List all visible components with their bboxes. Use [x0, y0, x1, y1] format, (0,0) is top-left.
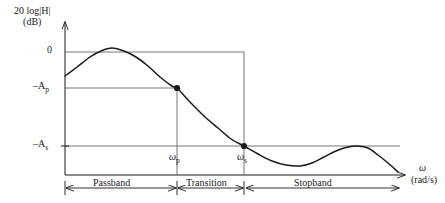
band-label-transition: Transition	[186, 178, 227, 189]
x-tick-omega-p-text: ω	[169, 151, 176, 162]
x-tick-omega-p-sub: p	[176, 156, 180, 165]
band-label-stopband: Stopband	[294, 178, 332, 189]
y-axis-title: 20 log|H| (dB)	[14, 6, 51, 27]
magnitude-response-curve	[65, 48, 398, 172]
y-axis-title-unit: (dB)	[14, 17, 51, 28]
y-tick-minus-ap-sub: p	[45, 85, 49, 94]
passband-edge-marker	[174, 85, 180, 91]
plot-canvas	[0, 0, 445, 203]
x-tick-omega-p: ωp	[169, 152, 180, 163]
x-axis-unit: (rad/s)	[411, 175, 437, 186]
y-tick-zero-text: 0	[47, 44, 52, 55]
x-tick-omega-s-text: ω	[237, 151, 244, 162]
y-axis-title-main: 20 log|H|	[14, 5, 51, 16]
x-tick-omega-s-sub: s	[244, 156, 247, 165]
stopband-edge-marker	[241, 143, 247, 149]
y-tick-minus-ap: –Ap	[33, 81, 49, 92]
x-axis-symbol-text: ω	[419, 162, 426, 173]
y-tick-minus-ap-text: –A	[33, 80, 45, 91]
y-tick-zero: 0	[47, 45, 52, 56]
y-tick-minus-as: –As	[33, 139, 48, 150]
x-tick-omega-s: ωs	[237, 152, 247, 163]
filter-response-figure: 20 log|H| (dB) 0 –Ap –As ωp ωs ω (rad/s)…	[0, 0, 445, 203]
y-tick-minus-as-sub: s	[45, 143, 48, 152]
x-axis-symbol: ω	[419, 163, 426, 174]
band-label-passband: Passband	[93, 178, 130, 189]
y-tick-minus-as-text: –A	[33, 138, 45, 149]
